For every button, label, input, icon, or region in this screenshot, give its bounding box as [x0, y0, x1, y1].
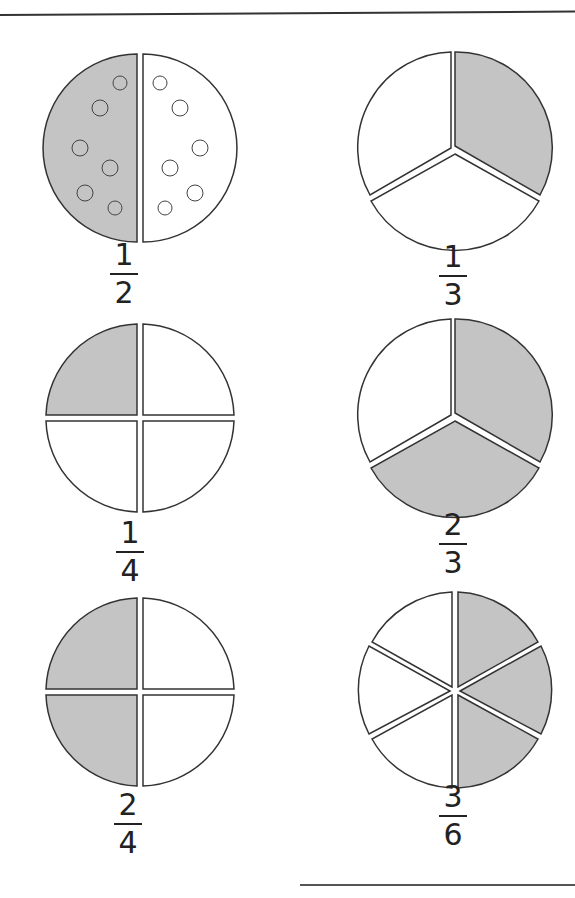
fraction-label-one-third: 1 3	[433, 242, 473, 310]
numerator: 2	[433, 510, 473, 540]
numerator: 1	[110, 518, 150, 548]
pizza-thirds-icon	[350, 45, 560, 255]
numerator: 3	[433, 782, 473, 812]
pizza-three-sixths	[335, 585, 575, 795]
pizza-halves-icon	[40, 48, 240, 248]
fraction-label-two-quarters: 2 4	[108, 790, 148, 858]
fraction-label-one-half: 1 2	[104, 240, 144, 308]
pizza-two-thirds	[335, 312, 575, 522]
denominator: 2	[104, 278, 144, 308]
pizza-quarters-icon	[40, 592, 240, 792]
pizza-one-third	[335, 45, 575, 255]
denominator: 4	[110, 556, 150, 586]
fraction-label-three-sixths: 3 6	[433, 782, 473, 850]
pizza-thirds-icon	[350, 312, 560, 522]
fraction-label-one-quarter: 1 4	[110, 518, 150, 586]
bottom-border-line	[300, 884, 575, 886]
pizza-one-quarter	[20, 318, 260, 518]
pizza-quarters-icon	[40, 318, 240, 518]
pizza-sixths-icon	[350, 585, 560, 795]
denominator: 3	[433, 548, 473, 578]
numerator: 1	[433, 242, 473, 272]
denominator: 4	[108, 828, 148, 858]
fraction-label-two-thirds: 2 3	[433, 510, 473, 578]
top-border-line	[0, 10, 575, 16]
denominator: 6	[433, 820, 473, 850]
numerator: 1	[104, 240, 144, 270]
numerator: 2	[108, 790, 148, 820]
pizza-one-half	[20, 48, 260, 248]
pizza-two-quarters	[20, 592, 260, 792]
denominator: 3	[433, 280, 473, 310]
